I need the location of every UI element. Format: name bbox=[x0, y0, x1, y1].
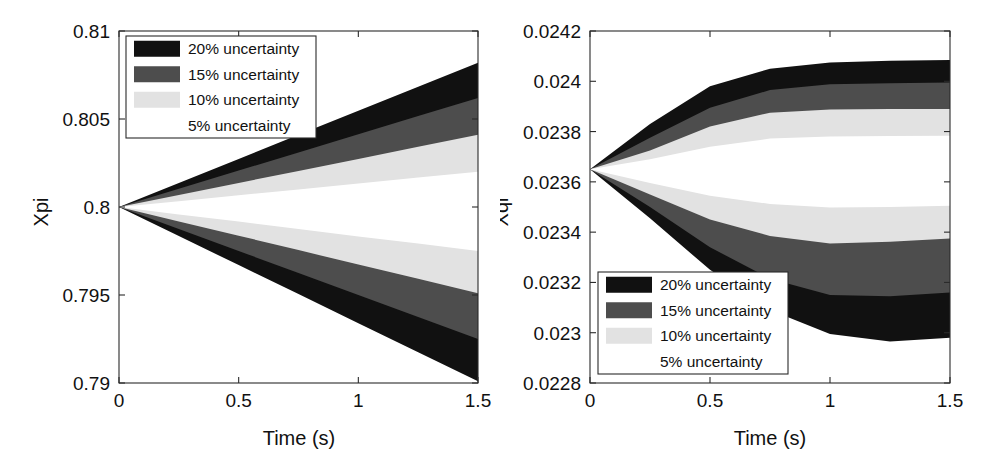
legend-label: 15% uncertainty bbox=[188, 66, 299, 83]
y-tick-label: 0.795 bbox=[62, 285, 110, 306]
legend-swatch bbox=[134, 66, 180, 82]
legend-label: 10% uncertainty bbox=[188, 91, 299, 108]
y-tick-label: 0.0242 bbox=[523, 21, 581, 42]
x-tick-label: 0 bbox=[585, 390, 596, 411]
legend-label: 15% uncertainty bbox=[660, 302, 771, 319]
legend-xpi[interactable]: 20% uncertainty15% uncertainty10% uncert… bbox=[126, 36, 316, 138]
legend-swatch bbox=[134, 41, 180, 57]
legend-swatch bbox=[606, 302, 652, 318]
panel-xqi: 00.511.50.02280.0230.02320.02340.02360.0… bbox=[500, 0, 1000, 456]
legend-label: 20% uncertainty bbox=[660, 276, 771, 293]
y-tick-label: 0.805 bbox=[62, 109, 110, 130]
legend-xqi[interactable]: 20% uncertainty15% uncertainty10% uncert… bbox=[598, 272, 788, 374]
y-tick-label: 0.8 bbox=[84, 197, 110, 218]
x-tick-label: 0.5 bbox=[225, 390, 251, 411]
y-tick-label: 0.0232 bbox=[523, 272, 581, 293]
legend-label: 10% uncertainty bbox=[660, 327, 771, 344]
legend-swatch bbox=[606, 328, 652, 344]
legend-swatch bbox=[606, 277, 652, 293]
y-tick-label: 0.0228 bbox=[523, 373, 581, 394]
y-tick-label: 0.023 bbox=[533, 323, 581, 344]
legend-label: 5% uncertainty bbox=[188, 117, 291, 134]
y-tick-label: 0.0238 bbox=[523, 122, 581, 143]
y-tick-label: 0.024 bbox=[533, 71, 581, 92]
x-tick-label: 1.5 bbox=[465, 390, 491, 411]
x-tick-label: 0 bbox=[114, 390, 125, 411]
plot-xpi: 00.511.50.790.7950.80.8050.81 Xpi Time (… bbox=[0, 0, 500, 456]
x-axis-title-xqi: Time (s) bbox=[734, 427, 807, 449]
x-tick-label: 0.5 bbox=[697, 390, 723, 411]
legend-label: 5% uncertainty bbox=[660, 353, 763, 370]
y-tick-label: 0.81 bbox=[73, 21, 110, 42]
y-tick-label: 0.0234 bbox=[523, 222, 582, 243]
y-axis-title-xpi: Xpi bbox=[30, 198, 52, 227]
y-tick-label: 0.0236 bbox=[523, 172, 581, 193]
panel-xpi: 00.511.50.790.7950.80.8050.81 Xpi Time (… bbox=[0, 0, 500, 456]
legend-label: 20% uncertainty bbox=[188, 40, 299, 57]
plot-xqi: 00.511.50.02280.0230.02320.02340.02360.0… bbox=[500, 0, 1000, 456]
x-tick-label: 1.5 bbox=[937, 390, 963, 411]
y-axis-title-xqi: Xqi bbox=[500, 198, 512, 227]
x-tick-label: 1 bbox=[353, 390, 364, 411]
uncertainty-bands-figure: 00.511.50.790.7950.80.8050.81 Xpi Time (… bbox=[0, 0, 1001, 456]
legend-swatch bbox=[134, 92, 180, 108]
x-tick-label: 1 bbox=[825, 390, 836, 411]
y-tick-label: 0.79 bbox=[73, 373, 110, 394]
x-axis-title-xpi: Time (s) bbox=[263, 427, 336, 449]
